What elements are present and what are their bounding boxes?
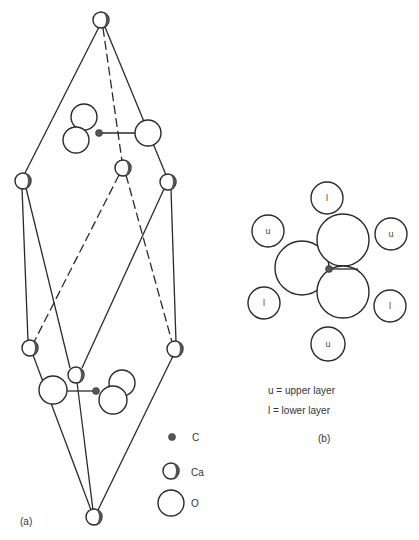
oxygen-atom <box>39 376 67 404</box>
bond-dashed <box>103 28 122 161</box>
surrounding-atom-upper: u <box>375 218 407 250</box>
svg-text:u: u <box>388 229 393 239</box>
calcium-atom <box>15 173 31 189</box>
panel-b-label: (b) <box>318 433 330 444</box>
calcium-atom <box>22 340 38 356</box>
bond-dashed <box>34 175 119 342</box>
calcium-atom <box>86 509 102 525</box>
calcium-atom <box>167 341 183 357</box>
legend-oxygen-symbol <box>158 490 184 516</box>
bond <box>77 382 93 510</box>
oxygen-atom <box>135 120 161 146</box>
bond <box>171 189 176 342</box>
svg-text:l: l <box>389 301 391 311</box>
oxygen-atom <box>99 386 127 414</box>
calcium-atom <box>93 12 109 28</box>
surrounding-atom-lower: l <box>374 290 406 322</box>
panel-a-label: (a) <box>20 516 32 527</box>
svg-text:l: l <box>263 298 265 308</box>
surrounding-atom-lower: l <box>248 287 280 319</box>
bond <box>82 189 164 368</box>
panel-a: C Ca O (a) <box>15 12 204 527</box>
legend-calcium-label: Ca <box>191 467 204 478</box>
legend: C Ca O <box>158 432 204 516</box>
key-upper-layer: u = upper layer <box>268 385 336 396</box>
surrounding-atom-upper: u <box>252 215 284 247</box>
carbon-atom <box>96 130 103 137</box>
calcium-atom <box>115 160 131 176</box>
oxygen-atom <box>63 127 89 153</box>
legend-carbon-label: C <box>192 432 199 443</box>
surrounding-atom-lower: l <box>311 182 343 214</box>
bond <box>105 27 166 175</box>
calcium-atom <box>160 174 176 190</box>
key-lower-layer: l = lower layer <box>268 405 331 416</box>
svg-text:u: u <box>325 339 330 349</box>
bond-dashed <box>126 175 172 342</box>
bond <box>22 188 28 341</box>
svg-text:u: u <box>265 226 270 236</box>
surrounding-atom-upper: u <box>311 327 345 361</box>
crystal-structure-diagram: C Ca O (a) l u u <box>0 0 419 540</box>
oxygen-atom-large <box>317 214 369 266</box>
svg-text:l: l <box>326 193 328 203</box>
legend-carbon-symbol <box>169 434 176 441</box>
oxygen-atom <box>71 104 97 130</box>
panel-b: l u u l l u u = upper layer l = lower la… <box>248 182 407 444</box>
oxygen-atom-large <box>317 266 369 318</box>
carbon-atom <box>326 266 333 273</box>
legend-oxygen-label: O <box>191 498 199 509</box>
bond <box>24 27 99 175</box>
calcium-atom <box>68 367 84 383</box>
carbon-atom <box>93 388 100 395</box>
legend-calcium-symbol <box>163 463 179 479</box>
